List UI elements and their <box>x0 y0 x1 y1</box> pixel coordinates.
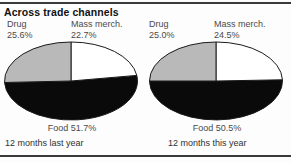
pie-panel-last-year: Drug 25.6% Mass merch. 22.7% Food 51.7% … <box>1 18 143 158</box>
pie-slice-drug <box>150 42 217 81</box>
page-title: Across trade channels <box>4 6 119 18</box>
callout-mass-merch-percent: 22.7% <box>71 30 123 41</box>
callout-mass-merch-category: Mass merch. <box>71 19 123 30</box>
top-divider-rule <box>0 2 291 4</box>
pie-slice-food <box>150 80 283 120</box>
pie-slice-mass-merch <box>216 42 282 81</box>
callout-drug-percent: 25.0% <box>149 30 175 41</box>
period-label-this-year: 12 months this year <box>168 138 247 148</box>
callout-drug-percent: 25.6% <box>7 30 33 41</box>
period-label-last-year: 12 months last year <box>5 138 84 148</box>
callout-food: Food 50.5% <box>146 123 288 133</box>
pie-panel-this-year: Drug 25.0% Mass merch. 24.5% Food 50.5% … <box>146 18 288 158</box>
bottom-divider-rule <box>0 155 291 157</box>
callout-drug-category: Drug <box>149 19 175 30</box>
callout-drug-category: Drug <box>7 19 33 30</box>
pie-chart-this-year <box>148 41 284 121</box>
pie-slice-mass-merch <box>71 42 137 81</box>
callout-drug: Drug 25.0% <box>149 19 175 40</box>
callout-mass-merch: Mass merch. 24.5% <box>214 19 266 40</box>
pie-svg <box>148 41 284 121</box>
pie-chart-last-year <box>3 41 139 121</box>
callout-drug: Drug 25.6% <box>7 19 33 40</box>
pie-svg <box>3 41 139 121</box>
trade-channels-figure: Across trade channels Drug 25.6% Mass me… <box>0 0 291 163</box>
pie-slice-drug <box>5 42 71 82</box>
callout-mass-merch-category: Mass merch. <box>214 19 266 30</box>
callout-mass-merch: Mass merch. 22.7% <box>71 19 123 40</box>
callout-mass-merch-percent: 24.5% <box>214 30 266 41</box>
callout-food: Food 51.7% <box>1 123 143 133</box>
